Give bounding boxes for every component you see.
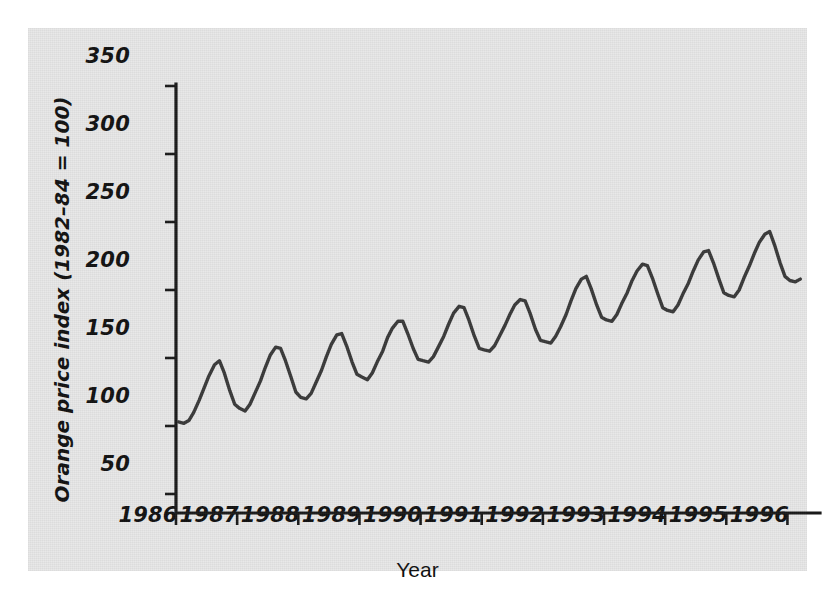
axis-ticks: [165, 86, 787, 525]
figure-panel: Orange price index (1982–84 = 100) Year …: [28, 28, 807, 571]
data-series-line: [178, 232, 800, 424]
plot-area: [28, 28, 838, 601]
axis-lines: [176, 84, 820, 513]
